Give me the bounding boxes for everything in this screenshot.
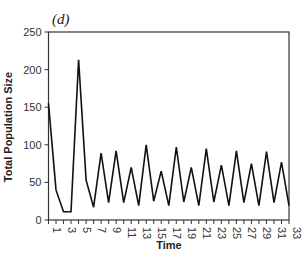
x-tick-label: 5 [81, 227, 93, 233]
x-axis: 13579111315171921232527293133 [49, 220, 304, 239]
x-tick-label: 27 [246, 227, 258, 239]
y-tick-label: 150 [23, 101, 41, 113]
x-tick-label: 7 [96, 227, 108, 233]
x-tick-label: 3 [66, 227, 78, 233]
line-chart: (d) 050100150200250 13579111315171921232… [0, 0, 307, 259]
x-tick-label: 1 [51, 227, 63, 233]
x-tick-label: 9 [111, 227, 123, 233]
x-tick-label: 21 [201, 227, 213, 239]
y-tick-label: 250 [23, 26, 41, 38]
x-tick-label: 31 [276, 227, 288, 239]
y-tick-label: 100 [23, 139, 41, 151]
plot-frame [49, 32, 290, 220]
x-tick-label: 11 [126, 227, 138, 238]
y-tick-label: 200 [23, 64, 41, 76]
x-axis-label: Time [156, 239, 181, 251]
y-axis-label: Total Population Size [2, 72, 14, 182]
y-axis: 050100150200250 [23, 26, 48, 226]
chart-title: (d) [52, 11, 70, 28]
y-tick-label: 0 [35, 214, 41, 226]
x-tick-label: 33 [291, 227, 303, 239]
x-tick-label: 25 [231, 227, 243, 239]
y-tick-label: 50 [29, 176, 41, 188]
data-line [49, 60, 290, 212]
x-tick-label: 19 [186, 227, 198, 239]
x-tick-label: 15 [156, 227, 168, 239]
x-tick-label: 29 [261, 227, 273, 239]
x-tick-label: 17 [171, 227, 183, 239]
x-tick-label: 23 [216, 227, 228, 239]
x-tick-label: 13 [141, 227, 153, 239]
